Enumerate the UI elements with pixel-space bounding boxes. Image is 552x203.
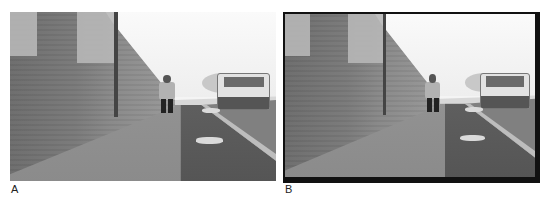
wall-window — [348, 14, 383, 63]
photo-panel-b-frame — [283, 12, 540, 183]
parked-car — [217, 73, 270, 110]
street-scene-photo — [10, 12, 276, 181]
pole — [383, 14, 387, 115]
child-walking — [159, 75, 175, 114]
wall-window — [285, 14, 310, 56]
wall-window — [10, 12, 37, 56]
photo-panel-b — [285, 14, 535, 177]
street-scene-photo — [285, 14, 535, 177]
litter — [460, 135, 485, 142]
wall-window — [77, 12, 114, 63]
panel-label-b: B — [285, 183, 292, 195]
litter — [465, 107, 483, 112]
panel-label-a: A — [11, 183, 18, 195]
parked-car — [480, 73, 530, 109]
pole — [114, 12, 118, 117]
child-walking — [425, 74, 440, 111]
litter — [196, 137, 223, 144]
photo-panel-a — [10, 12, 276, 181]
